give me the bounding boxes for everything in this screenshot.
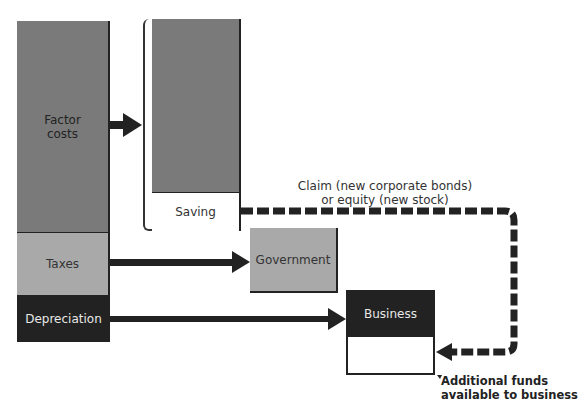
claim-line-1: Claim (new corporate bonds) bbox=[285, 179, 485, 193]
additional-funds-annotation: Additional funds available to business bbox=[441, 374, 581, 402]
additional-line-2: available to business bbox=[441, 388, 581, 402]
arrow-factor-to-saving-icon bbox=[110, 113, 142, 137]
arrow-taxes-to-government-icon bbox=[110, 251, 250, 273]
dashed-claim-arrow-icon bbox=[241, 211, 514, 361]
claim-line-2: or equity (new stock) bbox=[285, 193, 485, 207]
additional-line-1: Additional funds bbox=[441, 374, 581, 388]
arrow-depreciation-to-business-icon bbox=[110, 308, 346, 330]
claim-annotation: Claim (new corporate bonds) or equity (n… bbox=[285, 179, 485, 207]
